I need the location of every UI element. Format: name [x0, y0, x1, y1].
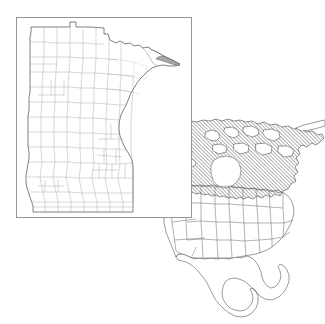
map-figure: Minnesota Cook County North America Rang… [0, 0, 325, 324]
mexico-central-america-outline [176, 254, 289, 317]
greenland-margin [296, 120, 325, 131]
minnesota-inset-panel [17, 18, 192, 218]
map-figure-canvas [0, 0, 325, 324]
